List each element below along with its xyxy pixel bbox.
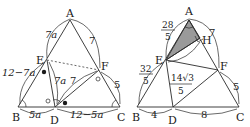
arc-af [70, 19, 100, 68]
segment-ef-right [166, 60, 218, 70]
vertex-b: B [12, 111, 20, 124]
label-dc: 12−5a [70, 109, 103, 120]
vertex-f-right: F [220, 60, 228, 73]
label-df: 7 [70, 75, 76, 86]
label-dc-right: 8 [201, 109, 207, 120]
label-ae-num: 28 [162, 20, 174, 30]
vertex-e-right: E [155, 54, 163, 67]
angle-b-mark [22, 100, 26, 107]
vertex-f: F [101, 60, 109, 73]
dot-marker-d [63, 101, 67, 105]
label-eh-den: 5 [178, 86, 184, 96]
circle-marker-d [46, 99, 50, 103]
geometry-figures: A E F B D C 7a 7 12−7a 7a 7 5a 12−5a 5 A… [0, 0, 250, 127]
segment-ed-right [166, 60, 173, 107]
angle-c-mark [112, 100, 116, 107]
vertex-c: C [117, 111, 125, 124]
circle-marker-f [96, 77, 100, 81]
label-eh-num: 14√3 [171, 73, 194, 83]
label-ed: 7a [54, 75, 66, 86]
segment-ef-dashed [47, 60, 99, 70]
label-bd-right: 4 [151, 109, 157, 120]
label-eb-den: 5 [143, 76, 149, 86]
vertex-b-right: B [132, 111, 140, 124]
label-af: 7 [89, 35, 95, 46]
label-eb: 12−7a [2, 67, 35, 78]
label-fc: 5 [114, 79, 120, 90]
vertex-e: E [36, 54, 44, 67]
vertex-a: A [65, 7, 75, 20]
vertex-a-right: A [184, 5, 194, 18]
vertex-d-right: D [168, 114, 177, 127]
label-eb-num: 32 [140, 64, 151, 74]
label-ae-den: 5 [165, 32, 171, 42]
vertex-c-right: C [236, 111, 244, 124]
label-ae: 7a [45, 29, 57, 40]
label-fc-right: 5 [233, 81, 239, 92]
label-af-right: 7 [209, 27, 215, 38]
label-bd: 5a [29, 109, 41, 120]
dot-marker-e [42, 70, 46, 74]
vertex-d: D [50, 114, 59, 127]
